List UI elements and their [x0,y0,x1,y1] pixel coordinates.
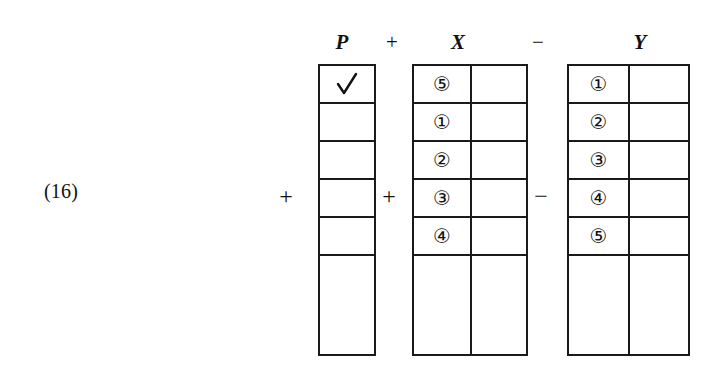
grid-x: ⑤ ① ② ③ ④ [412,64,528,356]
grid-x-column-0: ⑤ ① ② ③ ④ [414,66,470,354]
circled-number: ⑤ [433,74,451,94]
grid-y-cell-3-1[interactable] [630,180,688,218]
circled-number: ③ [590,150,608,170]
grid-x-cell-3-1[interactable] [472,180,526,218]
circled-number: ① [433,112,451,132]
grid-y-cell-2-0[interactable]: ③ [569,142,628,180]
grid-x-cell-1-1[interactable] [472,104,526,142]
grid-x-cell-3-0[interactable]: ③ [414,180,470,218]
header-label-p: P [322,27,362,57]
header-operator-minus: − [518,27,558,57]
grid-x-cell-4-0[interactable]: ④ [414,218,470,256]
grid-x-cell-2-0[interactable]: ② [414,142,470,180]
grid-y-cell-3-0[interactable]: ④ [569,180,628,218]
grid-y-cell-4-1[interactable] [630,218,688,256]
grid-p-cell-0-0[interactable] [320,66,374,104]
grid-y-cell-0-0[interactable]: ① [569,66,628,104]
circled-number: ② [590,112,608,132]
grid-x-tail-1[interactable] [472,256,526,354]
equation-number: (16) [44,180,78,203]
grid-x-cell-2-1[interactable] [472,142,526,180]
grid-y-column-0: ① ② ③ ④ ⑤ [569,66,628,354]
grid-y-tail-0[interactable] [569,256,628,354]
grid-p-cell-3-0[interactable] [320,180,374,218]
operator-x-to-y: − [528,184,554,208]
grid-p-column-0 [320,66,374,354]
checkmark-icon [334,71,360,97]
equation-figure: (16) P + X − Y + + − [0,0,714,381]
circled-number: ④ [590,188,608,208]
grid-p-cell-4-0[interactable] [320,218,374,256]
grid-p-tail[interactable] [320,256,374,354]
grid-y-cell-1-0[interactable]: ② [569,104,628,142]
grid-y-cell-1-1[interactable] [630,104,688,142]
header-row: P + X − Y [0,27,714,57]
grid-x-cell-4-1[interactable] [472,218,526,256]
operator-before-p: + [273,184,299,208]
header-label-y: Y [620,27,660,57]
grid-x-cell-1-0[interactable]: ① [414,104,470,142]
circled-number: ⑤ [590,226,608,246]
operator-p-to-x: + [376,184,402,208]
grid-x-tail-0[interactable] [414,256,470,354]
grid-p-cell-1-0[interactable] [320,104,374,142]
grid-y-column-1 [628,66,688,354]
circled-number: ④ [433,226,451,246]
circled-number: ③ [433,188,451,208]
grid-y: ① ② ③ ④ ⑤ [567,64,690,356]
grid-p-cell-2-0[interactable] [320,142,374,180]
header-label-x: X [438,27,478,57]
header-operator-plus: + [372,27,412,57]
grid-x-cell-0-0[interactable]: ⑤ [414,66,470,104]
grid-x-cell-0-1[interactable] [472,66,526,104]
grid-x-column-1 [470,66,526,354]
grid-y-tail-1[interactable] [630,256,688,354]
circled-number: ② [433,150,451,170]
grid-p [318,64,376,356]
grid-y-cell-0-1[interactable] [630,66,688,104]
grid-y-cell-2-1[interactable] [630,142,688,180]
circled-number: ① [590,74,608,94]
grid-y-cell-4-0[interactable]: ⑤ [569,218,628,256]
